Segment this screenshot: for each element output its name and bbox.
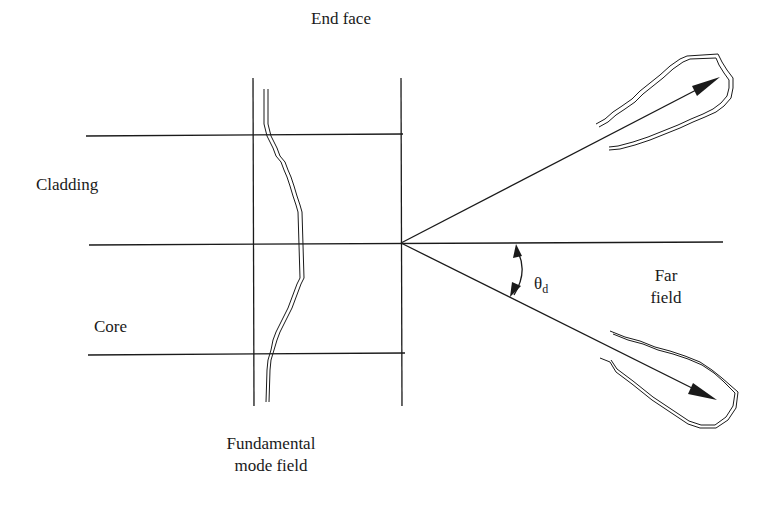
angle-arrow-up-icon [513, 244, 522, 258]
core-label: Core [94, 316, 127, 338]
upper-ray-arrowhead-icon [692, 77, 720, 96]
theta-symbol: θ [534, 274, 542, 293]
mode-field-axis-line [253, 78, 254, 406]
upper-far-field-lobe [596, 54, 733, 150]
mode-field-profile [264, 89, 304, 402]
divergence-angle-arc [510, 244, 522, 297]
far-field-label-line1: Far [636, 265, 696, 287]
end-face-label: End face [311, 8, 371, 30]
theta-subscript: d [542, 282, 548, 296]
upper-divergence-ray [401, 88, 700, 243]
far-field-label: Far field [636, 265, 696, 309]
cladding-label: Cladding [36, 174, 98, 196]
mode-field-label: Fundamental mode field [206, 433, 336, 477]
lower-core-boundary [88, 353, 405, 355]
mode-field-label-line2: mode field [206, 455, 336, 477]
lower-far-field-lobe [600, 331, 738, 428]
far-field-label-line2: field [636, 287, 696, 309]
upper-core-boundary [86, 134, 403, 136]
mode-field-label-line1: Fundamental [206, 433, 336, 455]
fiber-axis-line [89, 242, 723, 245]
fiber-diagram-canvas [0, 0, 775, 506]
lower-ray-arrowhead-icon [688, 383, 717, 400]
divergence-angle-label: θd [534, 273, 548, 300]
